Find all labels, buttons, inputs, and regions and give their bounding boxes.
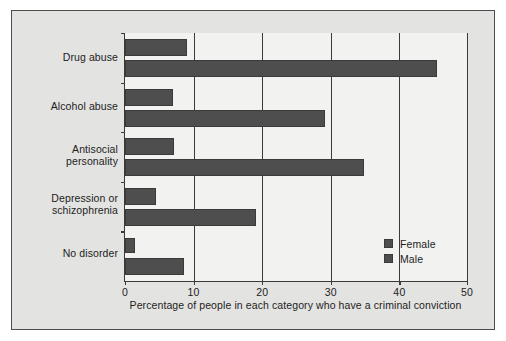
category-label-line: Depression or xyxy=(14,192,118,204)
category-label-alcohol-abuse: Alcohol abuse xyxy=(14,100,118,112)
y-tick-mark xyxy=(121,83,125,84)
x-tick-label-40: 40 xyxy=(393,286,405,298)
bar-drug-abuse-male xyxy=(125,60,437,77)
x-axis-title: Percentage of people in each category wh… xyxy=(124,299,467,311)
category-label-no-disorder: No disorder xyxy=(14,247,118,259)
category-label-line: No disorder xyxy=(14,247,118,259)
plot-area: 0 10 20 30 40 50 Female Male xyxy=(124,33,468,282)
category-label-drug-abuse: Drug abuse xyxy=(14,51,118,63)
x-tick-label-50: 50 xyxy=(461,286,473,298)
y-tick-mark xyxy=(121,132,125,133)
bar-alcohol-abuse-male xyxy=(125,110,325,127)
legend-item-female: Female xyxy=(384,236,454,251)
x-tick-mark-40 xyxy=(399,281,400,285)
legend-swatch-male xyxy=(384,254,393,263)
bar-drug-abuse-female xyxy=(125,39,187,56)
x-tick-label-20: 20 xyxy=(256,286,268,298)
y-axis-category-labels: Drug abuse Alcohol abuse Antisocial pers… xyxy=(12,33,118,281)
x-tick-mark-0 xyxy=(125,281,126,285)
x-tick-label-30: 30 xyxy=(325,286,337,298)
bar-no-disorder-male xyxy=(125,258,184,275)
x-tick-mark-50 xyxy=(467,281,468,285)
bar-antisocial-personality-female xyxy=(125,138,174,155)
figure-container: Drug abuse Alcohol abuse Antisocial pers… xyxy=(0,0,506,341)
bar-no-disorder-female xyxy=(125,238,135,253)
bar-depression-or-schizophrenia-female xyxy=(125,188,156,205)
category-label-line: schizophrenia xyxy=(14,204,118,216)
x-tick-label-10: 10 xyxy=(188,286,200,298)
chart-legend: Female Male xyxy=(384,236,454,270)
category-label-depression-or-schizophrenia: Depression or schizophrenia xyxy=(14,192,118,216)
x-tick-label-0: 0 xyxy=(122,286,128,298)
bar-alcohol-abuse-female xyxy=(125,89,173,106)
y-tick-mark xyxy=(121,182,125,183)
gridline-50 xyxy=(467,33,468,281)
legend-swatch-female xyxy=(384,239,393,248)
y-tick-mark xyxy=(121,33,125,34)
category-label-line: Alcohol abuse xyxy=(14,100,118,112)
category-label-line: Antisocial xyxy=(14,143,118,155)
x-tick-mark-10 xyxy=(194,281,195,285)
x-tick-mark-20 xyxy=(262,281,263,285)
category-label-line: Drug abuse xyxy=(14,51,118,63)
legend-item-male: Male xyxy=(384,251,454,266)
bar-depression-or-schizophrenia-male xyxy=(125,209,256,226)
x-tick-mark-30 xyxy=(331,281,332,285)
category-label-antisocial-personality: Antisocial personality xyxy=(14,143,118,167)
legend-label-female: Female xyxy=(400,238,436,250)
y-tick-mark xyxy=(121,231,125,232)
category-label-line: personality xyxy=(14,155,118,167)
legend-label-male: Male xyxy=(400,253,423,265)
bar-antisocial-personality-male xyxy=(125,159,364,176)
chart-card: Drug abuse Alcohol abuse Antisocial pers… xyxy=(11,10,495,330)
